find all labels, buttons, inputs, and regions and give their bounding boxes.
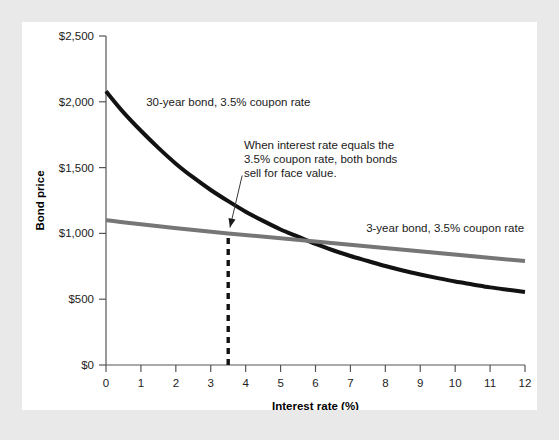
annotation-text: When interest rate equals the3.5% coupon… bbox=[244, 139, 398, 179]
x-axis-tick-label: 0 bbox=[103, 377, 109, 389]
x-axis-tick-label: 7 bbox=[347, 377, 353, 389]
x-axis-tick-label: 3 bbox=[208, 377, 214, 389]
x-axis-tick-label: 1 bbox=[138, 377, 144, 389]
y-axis-tick-label: $2,000 bbox=[59, 96, 94, 108]
series-label-2: 3-year bond, 3.5% coupon rate bbox=[366, 222, 524, 234]
bond-price-chart: $0$500$1,000$1,500$2,000$2,5000123456789… bbox=[22, 22, 537, 410]
chart-panel: $0$500$1,000$1,500$2,000$2,5000123456789… bbox=[22, 22, 537, 410]
y-axis-tick-label: $1,500 bbox=[59, 162, 94, 174]
series-line-1 bbox=[106, 91, 525, 292]
y-axis-tick-label: $500 bbox=[68, 293, 94, 305]
annotation-line: When interest rate equals the bbox=[244, 139, 394, 151]
x-axis-tick-label: 12 bbox=[519, 377, 532, 389]
x-axis-tick-label: 4 bbox=[242, 377, 249, 389]
annotation-line: 3.5% coupon rate, both bonds bbox=[244, 153, 398, 165]
x-axis-tick-label: 9 bbox=[417, 377, 423, 389]
y-axis-tick-label: $1,000 bbox=[59, 227, 94, 239]
x-axis-tick-label: 8 bbox=[382, 377, 388, 389]
annotation-arrow-head bbox=[229, 218, 236, 228]
x-axis-tick-label: 6 bbox=[312, 377, 318, 389]
series-label-1: 30-year bond, 3.5% coupon rate bbox=[146, 96, 310, 108]
x-axis-title: Interest rate (%) bbox=[272, 400, 359, 410]
y-axis-title: Bond price bbox=[34, 170, 46, 230]
y-axis-tick-label: $0 bbox=[81, 359, 94, 371]
x-axis-tick-label: 11 bbox=[484, 377, 496, 389]
x-axis-tick-label: 5 bbox=[277, 377, 283, 389]
x-axis-tick-label: 10 bbox=[449, 377, 462, 389]
figure-container: $0$500$1,000$1,500$2,000$2,5000123456789… bbox=[0, 0, 559, 440]
x-axis-tick-label: 2 bbox=[173, 377, 179, 389]
annotation-line: sell for face value. bbox=[244, 167, 337, 179]
y-axis-tick-label: $2,500 bbox=[59, 30, 94, 42]
